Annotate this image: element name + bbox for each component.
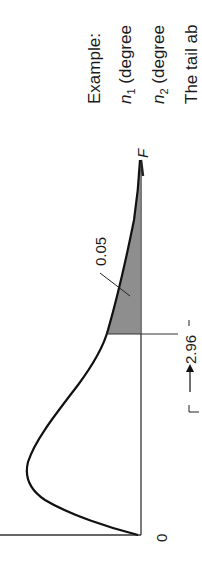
axis-label-f: F — [134, 148, 151, 158]
f-distribution-figure: 0.05 F 0 2.96 Example: n1 (degree n2 (de… — [0, 0, 202, 576]
origin-label: 0 — [153, 534, 170, 542]
caption-line-1: Example: — [85, 33, 104, 104]
density-curve — [27, 160, 140, 535]
tail-area-shading — [106, 160, 141, 334]
caption-line-3-text: (degree — [149, 25, 168, 88]
critical-value-label: 2.96 — [182, 335, 199, 364]
caption-line-3: n2 (degree — [149, 25, 170, 104]
n2-var: n — [149, 95, 168, 104]
tail-area-label: 0.05 — [92, 237, 109, 266]
caption-line-2-text: (degree — [116, 25, 135, 88]
arrow-icon — [186, 364, 194, 372]
bracket-mark — [189, 405, 199, 412]
caption-line-2: n1 (degree — [116, 25, 137, 104]
n1-var: n — [116, 95, 135, 104]
caption-line-4: The tail ab — [182, 25, 201, 104]
